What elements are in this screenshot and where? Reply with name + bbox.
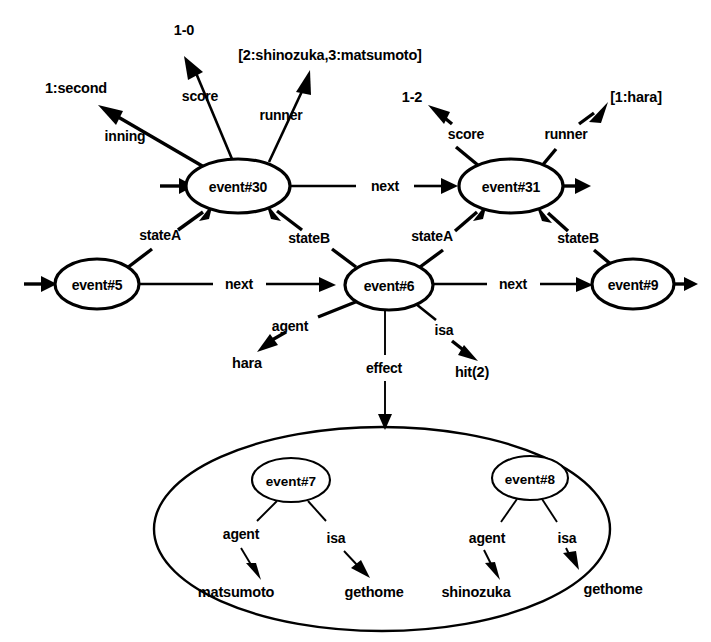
edge-label-inning: inning: [105, 128, 146, 144]
edge-label-score-event31: score: [448, 126, 485, 142]
edge-label-stateB-event30: stateB: [288, 230, 330, 246]
node-event31-label: event#31: [482, 179, 541, 195]
edge-label-agent-event7: agent: [223, 526, 260, 542]
node-event31[interactable]: event#31: [459, 159, 563, 213]
value-agent-shinozuka: shinozuka: [441, 584, 511, 600]
edge-label-effect-event6: effect: [366, 360, 403, 376]
node-event5[interactable]: event#5: [55, 259, 139, 309]
node-event7[interactable]: event#7: [252, 458, 330, 502]
node-event30[interactable]: event#30: [186, 159, 290, 213]
edge-label-isa-event7: isa: [327, 530, 346, 546]
edge-label-isa-event6: isa: [435, 322, 454, 338]
semantic-network-graph: event#30 event#31 event#5 event#6 event#…: [0, 0, 711, 642]
edge-label-next-event5-event6: next: [225, 276, 254, 292]
edge-label-runner-event30: runner: [259, 107, 303, 123]
edge-stub-out-event31: [563, 178, 591, 194]
value-isa-gethome-event8: gethome: [583, 581, 642, 597]
node-layer: event#30 event#31 event#5 event#6 event#…: [55, 159, 674, 502]
value-agent-hara: hara: [232, 355, 263, 371]
value-isa-gethome-event7: gethome: [344, 584, 403, 600]
edge-label-agent-event8: agent: [469, 530, 506, 546]
value-inning-second: 1:second: [45, 80, 107, 96]
value-score-1-0: 1-0: [174, 22, 194, 38]
edge-label-stateB-event31: stateB: [557, 230, 599, 246]
edge-label-runner-event31: runner: [544, 126, 588, 142]
value-runner-event31: [1:hara]: [610, 89, 662, 105]
node-event8[interactable]: event#8: [492, 456, 568, 500]
edge-label-score-event30: score: [182, 88, 219, 104]
edge-label-next-event6-event9: next: [499, 276, 528, 292]
value-label-layer: 1:second 1-0 [2:shinozuka,3:matsumoto] 1…: [45, 22, 662, 600]
value-isa-hit2: hit(2): [455, 364, 490, 380]
edge-label-stateA-event31: stateA: [411, 228, 453, 244]
node-event8-label: event#8: [505, 472, 556, 487]
value-score-1-2: 1-2: [402, 89, 422, 105]
edge-label-agent-event6: agent: [272, 318, 309, 334]
node-event9[interactable]: event#9: [592, 259, 674, 309]
edge-label-next-event30-event31: next: [371, 178, 400, 194]
node-event6-label: event#6: [364, 278, 415, 294]
edge-stub-out-event9: [674, 277, 698, 291]
node-event9-label: event#9: [608, 277, 659, 293]
node-event6[interactable]: event#6: [345, 260, 433, 310]
node-event30-label: event#30: [209, 179, 268, 195]
edge-stub-into-event5: [24, 276, 57, 292]
edge-event30-score: [184, 56, 232, 159]
node-event5-label: event#5: [72, 277, 123, 293]
edge-label-stateA-event30: stateA: [139, 227, 181, 243]
node-event7-label: event#7: [266, 474, 316, 489]
value-runner-event30: [2:shinozuka,3:matsumoto]: [238, 47, 422, 63]
edge-label-isa-event8: isa: [558, 530, 577, 546]
diagram-canvas: event#30 event#31 event#5 event#6 event#…: [0, 0, 711, 642]
value-agent-matsumoto: matsumoto: [198, 584, 275, 600]
